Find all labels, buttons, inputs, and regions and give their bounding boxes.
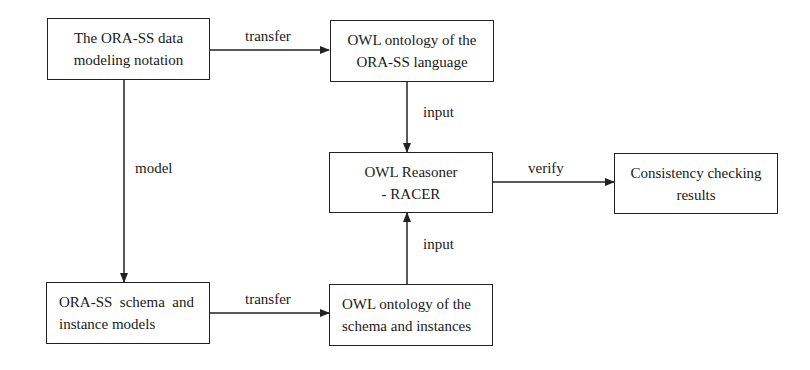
- node-text: instance models: [59, 313, 155, 335]
- node-schema-models: ORA-SS schema and instance models: [46, 282, 210, 344]
- node-owl-language: OWL ontology of the ORA-SS language: [330, 20, 494, 82]
- edge-label-input-top: input: [423, 104, 454, 121]
- edge-label-transfer-top: transfer: [245, 28, 291, 45]
- edge-label-model: model: [135, 160, 173, 177]
- node-text: OWL ontology of the: [342, 293, 471, 315]
- node-text: schema and instances: [342, 315, 471, 337]
- node-notation: The ORA-SS data modeling notation: [47, 18, 210, 80]
- node-text: results: [676, 184, 715, 206]
- node-text: Consistency checking: [630, 162, 761, 184]
- node-text: OWL ontology of the: [347, 29, 476, 51]
- node-owl-schema: OWL ontology of the schema and instances: [329, 284, 493, 346]
- node-reasoner: OWL Reasoner - RACER: [329, 152, 493, 213]
- edge-label-transfer-bottom: transfer: [245, 291, 291, 308]
- node-text: modeling notation: [74, 49, 184, 71]
- node-text: The ORA-SS data: [74, 27, 183, 49]
- edge-label-verify: verify: [528, 160, 564, 177]
- node-text: ORA-SS schema and: [59, 291, 194, 313]
- edge-label-input-bottom: input: [423, 236, 454, 253]
- node-text: ORA-SS language: [356, 51, 467, 73]
- node-text: - RACER: [382, 183, 441, 205]
- node-text: OWL Reasoner: [364, 161, 457, 183]
- node-results: Consistency checking results: [614, 153, 778, 214]
